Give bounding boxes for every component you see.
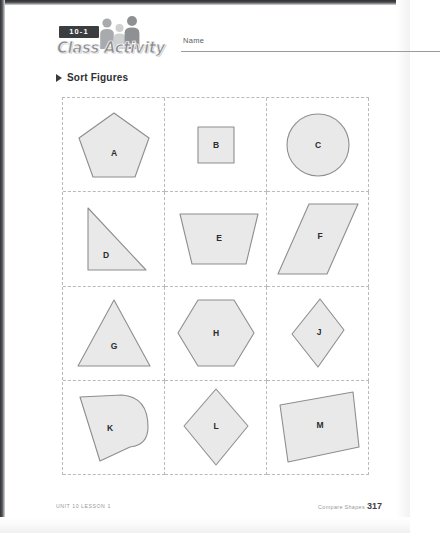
page-header: 10-1 bbox=[55, 14, 385, 60]
shape-label: J bbox=[316, 327, 321, 337]
footer-page-info: Compare Shapes317 bbox=[318, 501, 382, 511]
shape-cell-f[interactable]: F bbox=[267, 192, 369, 286]
shape-cell-j[interactable]: J bbox=[267, 287, 369, 381]
shape-label: B bbox=[212, 140, 218, 150]
shape-label: A bbox=[110, 148, 116, 158]
shape-cell-c[interactable]: C bbox=[267, 98, 369, 192]
shape-label: G bbox=[110, 341, 117, 351]
page-edge-top bbox=[0, 0, 410, 5]
name-write-in-line[interactable] bbox=[181, 51, 440, 52]
shape-label: F bbox=[317, 231, 322, 241]
class-activity-wordmark: Class Activity bbox=[57, 39, 173, 58]
shape-cell-h[interactable]: H bbox=[165, 287, 267, 381]
shape-label: H bbox=[212, 328, 218, 338]
page-edge-left bbox=[0, 0, 5, 533]
shape-label: D bbox=[102, 250, 108, 260]
class-activity-logo: 10-1 bbox=[55, 14, 173, 60]
name-field-label: Name bbox=[183, 36, 204, 45]
triangle-right-icon bbox=[56, 74, 62, 82]
shape-label: C bbox=[314, 140, 320, 150]
footer-unit-lesson: UNIT 10 LESSON 1 bbox=[56, 503, 111, 509]
shape-label: E bbox=[216, 233, 222, 243]
shape-cell-l[interactable]: L bbox=[165, 381, 267, 475]
page-edge-bottom bbox=[0, 517, 410, 533]
shape-label: K bbox=[106, 424, 113, 434]
shape-cell-k[interactable]: K bbox=[63, 381, 165, 475]
shape-label: L bbox=[213, 422, 218, 432]
section-heading: Sort Figures bbox=[56, 72, 128, 83]
page-edge-right bbox=[396, 0, 410, 533]
shape-cell-m[interactable]: M bbox=[267, 381, 369, 475]
shape-label: M bbox=[316, 421, 323, 431]
shape-cell-d[interactable]: D bbox=[63, 192, 165, 286]
page-number: 317 bbox=[367, 501, 382, 511]
shape-cell-e[interactable]: E bbox=[165, 192, 267, 286]
shape-cell-g[interactable]: G bbox=[63, 287, 165, 381]
section-heading-label: Sort Figures bbox=[67, 72, 128, 83]
shape-cell-a[interactable]: A bbox=[63, 98, 165, 192]
lesson-badge: 10-1 bbox=[59, 26, 99, 38]
footer-topic-label: Compare Shapes bbox=[318, 504, 365, 510]
shape-cell-b[interactable]: B bbox=[165, 98, 267, 192]
sort-figures-grid: A B C D E bbox=[62, 97, 369, 475]
class-activity-text: Class Activity bbox=[57, 39, 165, 57]
lesson-badge-label: 10-1 bbox=[59, 26, 99, 38]
